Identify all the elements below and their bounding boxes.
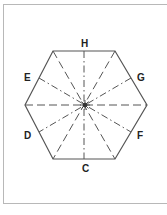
hexagon-diagram: H C E G D F — [0, 0, 167, 215]
label-f: F — [137, 130, 143, 141]
label-h: H — [81, 38, 88, 49]
label-g: G — [137, 72, 145, 83]
label-c: C — [82, 163, 89, 174]
label-e: E — [24, 72, 31, 83]
label-d: D — [24, 130, 31, 141]
center-mark-icon — [80, 100, 90, 110]
